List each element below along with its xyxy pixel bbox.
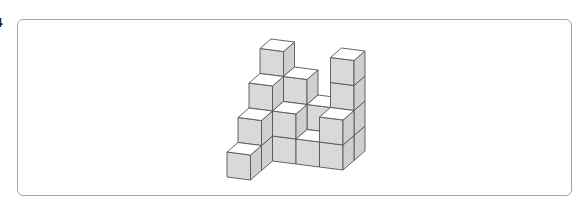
cube-front-face <box>249 83 273 111</box>
cube-front-face <box>227 152 251 180</box>
cube-front-face <box>320 142 344 170</box>
cube-front-face <box>238 118 262 146</box>
cube-stack-figure <box>0 0 586 206</box>
cube-front-face <box>320 117 344 145</box>
cube-front-face <box>331 83 355 111</box>
cube-front-face <box>260 49 284 77</box>
cube-front-face <box>296 139 320 167</box>
cube-front-face <box>284 77 308 105</box>
cube-front-face <box>273 136 297 164</box>
cube-front-face <box>273 111 297 139</box>
cube-front-face <box>331 58 355 86</box>
